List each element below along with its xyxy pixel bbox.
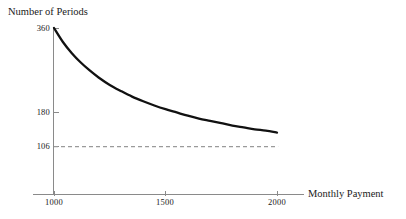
chart-figure: Number of Periods Monthly Payment 1000 1… [0, 0, 406, 219]
periods-vs-payment-curve [54, 28, 277, 133]
plot-area [0, 0, 406, 219]
